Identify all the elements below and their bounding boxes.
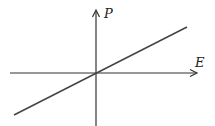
diagram-canvas: P E (0, 0, 215, 126)
x-axis-label: E (194, 55, 205, 70)
relation-line (14, 27, 187, 115)
y-axis-label: P (103, 6, 113, 21)
